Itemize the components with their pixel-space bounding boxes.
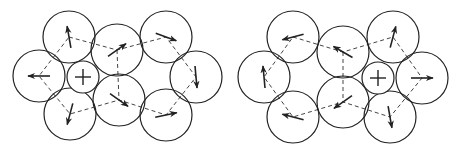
dashed-cross-path xyxy=(117,50,119,100)
spin-loop-diagram xyxy=(0,0,460,149)
panel-left xyxy=(13,11,222,141)
spin-arrow-icon xyxy=(155,113,177,118)
diagram-canvas xyxy=(0,0,460,149)
spin-arrow-icon xyxy=(263,66,265,88)
spin-arrow-icon xyxy=(108,44,126,57)
spin-arrow-icon xyxy=(67,103,73,124)
spin-arrow-icon xyxy=(282,114,303,120)
spin-arrow-icon xyxy=(156,33,177,41)
panel-right xyxy=(238,11,448,143)
spin-arrow-icon xyxy=(390,26,396,47)
spin-arrow-icon xyxy=(195,66,197,88)
